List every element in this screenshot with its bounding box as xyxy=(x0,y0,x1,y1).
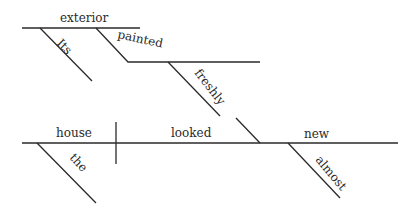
word-freshly: freshly xyxy=(192,66,229,108)
word-exterior: exterior xyxy=(60,11,109,25)
word-its: Its xyxy=(54,36,75,57)
word-house: house xyxy=(56,126,92,140)
word-painted: painted xyxy=(116,27,164,50)
word-the: the xyxy=(67,151,91,175)
word-almost: almost xyxy=(313,153,350,193)
the-modifier-line xyxy=(37,143,96,203)
word-looked: looked xyxy=(171,126,212,140)
word-new: new xyxy=(304,127,330,141)
complement-slash xyxy=(236,118,260,143)
sentence-diagram: exterior Its painted freshly house looke… xyxy=(0,0,416,214)
